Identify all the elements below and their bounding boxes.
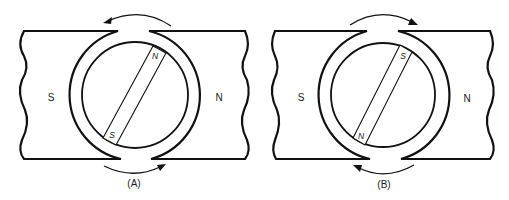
- rotor-lower-pole-label: N: [358, 131, 365, 141]
- panel-b: S N S N (B): [272, 15, 494, 190]
- rotation-arrow-top: [108, 15, 171, 26]
- stator-right-label: N: [215, 92, 222, 103]
- rotor-lower-pole-label: S: [109, 130, 115, 140]
- rotation-arrow-bottom: [359, 165, 414, 174]
- stator-left-label: S: [298, 92, 305, 103]
- stator-left-label: S: [48, 92, 55, 103]
- arrowhead-right-icon: [157, 164, 166, 171]
- rotor-upper-pole-label: N: [152, 51, 159, 61]
- arrowhead-right-icon: [408, 18, 418, 25]
- rotor-upper-pole-label: S: [400, 51, 406, 61]
- arrowhead-left-icon: [103, 17, 112, 24]
- stator-right-pole-piece: [398, 31, 494, 159]
- rotation-arrow-top: [350, 15, 412, 25]
- panel-a-caption: (A): [127, 178, 140, 189]
- panel-a: N S S N (A): [20, 15, 249, 189]
- arrowhead-left-icon: [353, 165, 362, 172]
- panel-b-caption: (B): [377, 179, 390, 190]
- motor-diagram-figure: N S S N (A) S N S N (B): [0, 0, 509, 200]
- stator-right-label: N: [463, 93, 470, 104]
- rotation-arrow-bottom: [104, 166, 160, 173]
